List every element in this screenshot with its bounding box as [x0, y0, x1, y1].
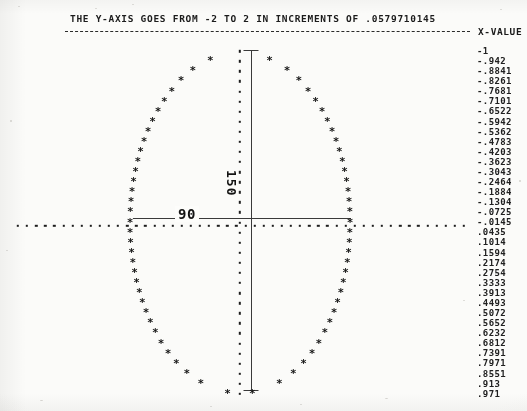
- axis-dot-vertical: [239, 110, 241, 112]
- plot-printout-page: THE Y-AXIS GOES FROM -2 TO 2 IN INCREMEN…: [0, 0, 527, 411]
- data-point-marker: *: [290, 370, 297, 378]
- axis-dot-vertical: [239, 272, 241, 274]
- axis-dot-vertical: [239, 141, 241, 143]
- x-value-item: .1014: [477, 237, 527, 247]
- x-value-item: -.0725: [477, 207, 527, 217]
- x-value-item: .6812: [477, 338, 527, 348]
- data-point-marker: *: [161, 98, 168, 106]
- axis-dot-vertical: [239, 211, 241, 213]
- axis-dot-vertical: [239, 393, 241, 395]
- axis-dot-horizontal: [281, 224, 283, 226]
- x-value-item: -.2464: [477, 177, 527, 187]
- axis-dot-vertical: [239, 70, 241, 72]
- axis-dot-vertical: [239, 352, 241, 354]
- data-point-marker: *: [173, 360, 180, 368]
- data-point-marker: *: [309, 350, 316, 358]
- axis-dot-horizontal: [444, 224, 446, 226]
- axis-dot-horizontal: [144, 224, 146, 226]
- data-point-marker: *: [197, 380, 204, 388]
- scan-speck: [500, 9, 502, 10]
- data-point-marker: *: [249, 390, 256, 398]
- data-point-marker: *: [207, 57, 214, 65]
- axis-dot-horizontal: [262, 224, 264, 226]
- axis-dot-horizontal: [226, 224, 228, 226]
- data-point-marker: *: [169, 88, 176, 96]
- axis-dot-vertical: [239, 161, 241, 163]
- axis-dot-horizontal: [426, 224, 428, 226]
- data-point-marker: *: [158, 340, 165, 348]
- data-point-marker: *: [284, 67, 291, 75]
- axis-dot-vertical: [239, 131, 241, 133]
- data-point-marker: *: [178, 77, 185, 85]
- axis-dot-horizontal: [171, 224, 173, 226]
- axis-dot-vertical: [239, 50, 241, 52]
- x-value-item: -.3043: [477, 167, 527, 177]
- axis-dot-vertical: [239, 322, 241, 324]
- x-value-item: -.7101: [477, 96, 527, 106]
- axis-dot-horizontal: [381, 224, 383, 226]
- x-value-list: -1-.942-.8841-.8261-.7681-.7101-.6522-.5…: [477, 46, 527, 399]
- axis-dot-horizontal: [353, 224, 355, 226]
- axis-dot-vertical: [239, 231, 241, 233]
- axis-dot-horizontal: [108, 224, 110, 226]
- data-point-marker: *: [266, 57, 273, 65]
- axis-dot-vertical: [239, 383, 241, 385]
- horizontal-measurement-line: [133, 218, 351, 219]
- x-value-item: -.4203: [477, 147, 527, 157]
- data-point-marker: *: [316, 340, 323, 348]
- x-value-item: .6232: [477, 328, 527, 338]
- axis-dot-horizontal: [17, 224, 19, 226]
- axis-dot-vertical: [239, 282, 241, 284]
- x-value-item: -.7681: [477, 86, 527, 96]
- x-value-item: -.5362: [477, 127, 527, 137]
- x-value-item: .2754: [477, 268, 527, 278]
- data-point-marker: *: [190, 67, 197, 75]
- axis-dot-horizontal: [317, 224, 319, 226]
- vertical-line-top-cap: [244, 50, 259, 51]
- data-point-marker: *: [165, 350, 172, 358]
- axis-dot-horizontal: [26, 224, 28, 226]
- axis-dot-horizontal: [117, 224, 119, 226]
- axis-dot-horizontal: [290, 224, 292, 226]
- axis-dot-horizontal: [390, 224, 392, 226]
- x-value-item: .4493: [477, 298, 527, 308]
- axis-dot-vertical: [239, 181, 241, 183]
- x-value-item: .5652: [477, 318, 527, 328]
- axis-dot-horizontal: [99, 224, 101, 226]
- axis-dot-horizontal: [53, 224, 55, 226]
- x-value-item: .913: [477, 379, 527, 389]
- data-point-marker: *: [300, 360, 307, 368]
- axis-dot-vertical: [239, 171, 241, 173]
- axis-dot-horizontal: [44, 224, 46, 226]
- axis-dot-vertical: [239, 252, 241, 254]
- axis-dot-vertical: [239, 302, 241, 304]
- x-value-item: .5072: [477, 308, 527, 318]
- axis-dot-vertical: [239, 60, 241, 62]
- axis-dot-vertical: [239, 373, 241, 375]
- data-point-marker: *: [321, 329, 328, 337]
- x-value-item: .8551: [477, 369, 527, 379]
- x-value-item: .0435: [477, 227, 527, 237]
- axis-dot-horizontal: [363, 224, 365, 226]
- axis-dot-vertical: [239, 191, 241, 193]
- axis-dot-vertical: [239, 221, 241, 223]
- axis-dot-horizontal: [399, 224, 401, 226]
- axis-dot-horizontal: [463, 224, 465, 226]
- axis-dot-horizontal: [244, 224, 246, 226]
- axis-dot-horizontal: [435, 224, 437, 226]
- axis-dot-vertical: [239, 292, 241, 294]
- axis-dot-horizontal: [408, 224, 410, 226]
- axis-dot-horizontal: [272, 224, 274, 226]
- axis-dot-horizontal: [153, 224, 155, 226]
- x-value-item: -.8261: [477, 76, 527, 86]
- x-value-item: .971: [477, 389, 527, 399]
- axis-dot-vertical: [239, 342, 241, 344]
- axis-dot-vertical: [239, 362, 241, 364]
- axis-dot-horizontal: [80, 224, 82, 226]
- axis-dot-vertical: [239, 100, 241, 102]
- x-value-item: .3333: [477, 278, 527, 288]
- data-point-marker: *: [296, 77, 303, 85]
- data-point-marker: *: [276, 380, 283, 388]
- x-value-item: -.0145: [477, 217, 527, 227]
- axis-dot-horizontal: [299, 224, 301, 226]
